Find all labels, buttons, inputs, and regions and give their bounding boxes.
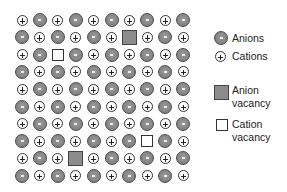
cation-icon	[52, 84, 63, 95]
cation-icon	[34, 32, 45, 43]
cation-icon	[124, 153, 135, 164]
cation-icon	[142, 66, 153, 77]
anion-icon	[33, 82, 47, 96]
anion-icon	[105, 13, 119, 27]
anion-icon	[140, 13, 154, 27]
cation-icon	[17, 84, 28, 95]
anion-icon	[158, 169, 172, 183]
cation-icon	[160, 118, 171, 129]
cation-icon	[142, 101, 153, 112]
anion-icon	[140, 82, 154, 96]
legend-label-anion-vacancy-line2: vacancy	[232, 97, 271, 110]
cation-icon	[88, 84, 99, 95]
cation-icon	[70, 66, 81, 77]
anion-icon	[158, 65, 172, 79]
anion-icon	[122, 134, 136, 148]
legend-label-cations: Cations	[232, 50, 268, 63]
crystal-lattice	[0, 0, 200, 192]
cation-icon	[34, 136, 45, 147]
legend-label-cation-vacancy-line1: Cation	[232, 118, 262, 131]
anion-icon	[176, 13, 190, 27]
anion-icon	[15, 100, 29, 114]
cation-icon	[142, 32, 153, 43]
cation-icon	[106, 66, 117, 77]
legend-label-anions: Anions	[232, 32, 264, 45]
cation-icon	[106, 32, 117, 43]
anion-icon	[33, 117, 47, 131]
cation-icon	[142, 170, 153, 181]
cation-icon	[17, 15, 28, 26]
cation-icon	[124, 118, 135, 129]
cation-icon	[88, 153, 99, 164]
cation-icon	[34, 170, 45, 181]
anion-icon	[140, 48, 154, 62]
cation-icon	[88, 118, 99, 129]
cation-icon	[178, 32, 189, 43]
anion-icon	[51, 100, 65, 114]
cation-icon	[124, 84, 135, 95]
cation-icon	[70, 170, 81, 181]
cation-icon	[178, 66, 189, 77]
anion-icon	[51, 30, 65, 44]
cation-icon	[106, 101, 117, 112]
cation-icon	[160, 49, 171, 60]
cation-icon	[17, 49, 28, 60]
cation-icon	[34, 66, 45, 77]
cation-icon	[17, 153, 28, 164]
anion-icon	[122, 65, 136, 79]
cation-icon	[160, 84, 171, 95]
anion-icon	[176, 117, 190, 131]
cation-icon	[106, 136, 117, 147]
cation-icon	[52, 153, 63, 164]
cation-icon	[88, 49, 99, 60]
anion-icon	[15, 65, 29, 79]
cation-icon	[178, 136, 189, 147]
cation-icon	[70, 136, 81, 147]
anion-icon	[51, 134, 65, 148]
anion-vacancy-icon	[214, 85, 229, 100]
anion-icon	[69, 117, 83, 131]
cation-icon	[52, 15, 63, 26]
anion-icon	[214, 31, 228, 45]
anion-icon	[15, 169, 29, 183]
cation-icon	[124, 15, 135, 26]
anion-icon	[51, 169, 65, 183]
cation-icon	[34, 101, 45, 112]
anion-icon	[33, 151, 47, 165]
cation-icon	[160, 153, 171, 164]
cation-icon	[178, 170, 189, 181]
anion-icon	[87, 134, 101, 148]
anion-icon	[158, 134, 172, 148]
anion-vacancy-icon	[68, 151, 83, 166]
anion-icon	[87, 100, 101, 114]
anion-icon	[33, 13, 47, 27]
anion-icon	[87, 30, 101, 44]
cation-icon	[70, 32, 81, 43]
cation-icon	[178, 101, 189, 112]
anion-icon	[69, 82, 83, 96]
cation-icon	[160, 15, 171, 26]
anion-icon	[140, 117, 154, 131]
cation-vacancy-icon	[141, 135, 153, 147]
anion-icon	[122, 100, 136, 114]
cation-vacancy-icon	[52, 49, 64, 61]
anion-icon	[15, 134, 29, 148]
cation-icon	[215, 51, 226, 62]
anion-icon	[33, 48, 47, 62]
anion-icon	[69, 13, 83, 27]
anion-icon	[158, 100, 172, 114]
cation-icon	[52, 118, 63, 129]
legend-label-anion-vacancy-line1: Anion	[232, 84, 259, 97]
anion-icon	[105, 151, 119, 165]
anion-icon	[87, 169, 101, 183]
legend-label-cation-vacancy-line2: vacancy	[232, 131, 271, 144]
anion-vacancy-icon	[122, 30, 137, 45]
anion-icon	[176, 151, 190, 165]
cation-icon	[88, 15, 99, 26]
anion-icon	[140, 151, 154, 165]
anion-icon	[176, 82, 190, 96]
anion-icon	[105, 48, 119, 62]
anion-icon	[105, 82, 119, 96]
anion-icon	[122, 169, 136, 183]
cation-vacancy-icon	[216, 119, 228, 131]
